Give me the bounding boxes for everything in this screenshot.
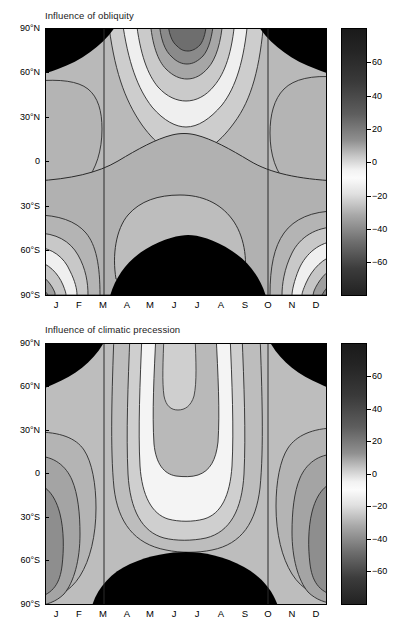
xtick-bottom-5: J [172,608,177,619]
ytickmark-top-3 [45,161,49,162]
colorbar-gradient-top [342,29,366,295]
xtick-top-6: J [195,299,200,310]
xtick-bottom-0: J [54,608,59,619]
ctick-bottom-3: 0 [372,469,377,479]
xtick-bottom-7: A [218,608,224,619]
panel-title-obliquity: Influence of obliquity [45,10,134,21]
ctick-bottom-1: 40 [372,404,382,414]
ytick-0-bottom: 0 [0,468,40,478]
ctick-bottom-0: 60 [372,371,382,381]
xtick-top-10: N [289,299,296,310]
plot-area-precession [45,343,327,605]
xtick-bottom-4: M [146,608,154,619]
ctickmark-top-5 [367,229,371,230]
ytickmark-bottom-3 [45,473,49,474]
ytickmark-top-2 [45,117,49,118]
ytick-30s-top: 30°S [0,201,40,211]
ytickmark-bottom-4 [45,517,49,518]
ctickmark-top-2 [367,129,371,130]
xtick-bottom-3: A [124,608,130,619]
ytick-0-top: 0 [0,156,40,166]
colorbar-precession [341,343,367,605]
ctick-top-6: −60 [372,257,387,267]
ytick-90n-top: 90°N [0,23,40,33]
xtick-top-2: M [99,299,107,310]
ctickmark-bottom-3 [367,474,371,475]
colorbar-gradient-bottom [342,344,366,604]
ctick-bottom-4: −20 [372,501,387,511]
ctickmark-top-0 [367,62,371,63]
xtick-top-5: J [172,299,177,310]
xtick-top-0: J [54,299,59,310]
ctick-top-0: 60 [372,57,382,67]
ctickmark-bottom-6 [367,571,371,572]
ctick-bottom-5: −40 [372,534,387,544]
xtick-top-8: S [242,299,248,310]
ytickmark-bottom-2 [45,430,49,431]
ytickmark-top-1 [45,72,49,73]
ytickmark-top-5 [45,250,49,251]
xtick-bottom-10: N [289,608,296,619]
ctickmark-bottom-1 [367,409,371,410]
ytick-60s-top: 60°S [0,245,40,255]
colorbar-obliquity [341,28,367,296]
ytick-60s-bottom: 60°S [0,555,40,565]
ctick-bottom-6: −60 [372,566,387,576]
xtick-top-11: D [313,299,320,310]
xtick-bottom-6: J [195,608,200,619]
ctickmark-bottom-5 [367,539,371,540]
ytick-60n-bottom: 60°N [0,381,40,391]
xtick-bottom-9: O [264,608,271,619]
ctick-bottom-2: 20 [372,436,382,446]
ytick-60n-top: 60°N [0,67,40,77]
ctickmark-bottom-2 [367,441,371,442]
ctick-top-1: 40 [372,91,382,101]
ytick-90s-bottom: 90°S [0,599,40,609]
ctickmark-bottom-0 [367,376,371,377]
ctickmark-bottom-4 [367,506,371,507]
ctick-top-3: 0 [372,157,377,167]
xtick-bottom-11: D [313,608,320,619]
ctick-top-2: 20 [372,124,382,134]
ctickmark-top-1 [367,96,371,97]
ytick-30s-bottom: 30°S [0,512,40,522]
xtick-top-9: O [264,299,271,310]
ytick-30n-bottom: 30°N [0,425,40,435]
contour-map-precession [46,344,326,604]
ctick-top-4: −20 [372,191,387,201]
panel-title-precession: Influence of climatic precession [45,324,180,335]
ctickmark-top-4 [367,196,371,197]
ctick-top-5: −40 [372,224,387,234]
ytick-90n-bottom: 90°N [0,338,40,348]
ctickmark-top-3 [367,162,371,163]
ytickmark-bottom-1 [45,386,49,387]
xtick-top-7: A [218,299,224,310]
xtick-bottom-1: F [76,608,82,619]
contour-map-obliquity [46,29,326,295]
ctickmark-top-6 [367,262,371,263]
xtick-bottom-2: M [99,608,107,619]
xtick-top-4: M [146,299,154,310]
figure-root: Influence of obliquity 90°N 60°N 30°N 0 … [0,0,406,632]
ytick-90s-top: 90°S [0,290,40,300]
ytickmark-bottom-5 [45,560,49,561]
ytickmark-top-4 [45,206,49,207]
xtick-top-3: A [124,299,130,310]
ytick-30n-top: 30°N [0,112,40,122]
xtick-bottom-8: S [242,608,248,619]
plot-area-obliquity [45,28,327,296]
xtick-top-1: F [76,299,82,310]
